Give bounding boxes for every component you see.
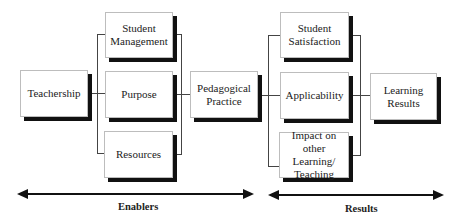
- results-double-arrow: [268, 190, 444, 200]
- section-arrows: [0, 0, 457, 222]
- enablers-double-arrow: [17, 189, 254, 199]
- section-label-results: Results: [345, 203, 378, 214]
- section-label-enablers: Enablers: [118, 201, 158, 212]
